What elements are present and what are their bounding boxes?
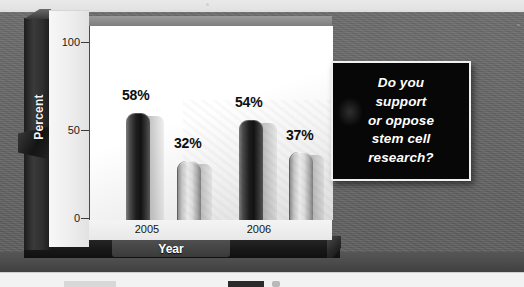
chart-left-bevel: Percent <box>24 18 51 250</box>
image-speck <box>517 24 520 26</box>
y-tick-label-50: 50 <box>68 125 80 136</box>
bar-value-label-2005-support: 58% <box>122 87 149 103</box>
bar-value-label-2006-oppose: 37% <box>286 127 313 143</box>
bottom-artifact-right <box>272 281 280 287</box>
y-tick-mark-100 <box>81 42 89 43</box>
bottom-artifact-left <box>64 281 116 287</box>
bottom-artifact-center <box>228 281 264 287</box>
question-line-3: or oppose <box>368 112 434 131</box>
plot-top-shadow <box>86 16 332 26</box>
question-line-5: research? <box>368 149 434 168</box>
screenshot-root: Percent 100 50 0 58% 32% 54% <box>0 0 524 287</box>
bar-shadow <box>253 123 277 220</box>
bar-shadow <box>302 155 324 220</box>
bar-2005-support <box>126 113 150 220</box>
x-tick-label-2006: 2006 <box>229 223 289 235</box>
y-tick-label-100: 100 <box>62 37 80 48</box>
y-tick-mark-0 <box>81 218 89 219</box>
question-text: Do you support or oppose stem cell resea… <box>368 74 434 167</box>
question-line-1: Do you <box>368 74 434 93</box>
bar-chart: Percent 100 50 0 58% 32% 54% <box>24 8 344 256</box>
bar-2006-support <box>239 120 263 220</box>
image-speck <box>206 3 209 6</box>
x-axis-title: Year <box>112 241 230 257</box>
y-axis-tick-panel: 100 50 0 <box>49 10 89 247</box>
question-line-2: support <box>368 93 434 112</box>
bar-2006-oppose <box>289 152 313 220</box>
y-axis-title: Percent <box>32 82 46 152</box>
bar-value-label-2006-support: 54% <box>235 94 262 110</box>
bar-shadow <box>190 164 212 220</box>
bar-2005-oppose <box>177 161 201 220</box>
question-line-4: stem cell <box>368 130 434 149</box>
y-tick-mark-50 <box>81 130 89 131</box>
question-callout: Do you support or oppose stem cell resea… <box>331 61 471 181</box>
bar-value-label-2005-oppose: 32% <box>174 135 201 151</box>
x-tick-label-2005: 2005 <box>117 223 177 235</box>
y-tick-label-0: 0 <box>74 213 80 224</box>
plot-area <box>89 26 333 220</box>
